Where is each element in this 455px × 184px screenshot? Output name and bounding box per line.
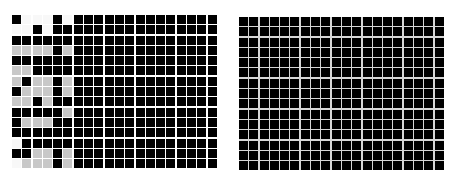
grid-cell <box>94 108 103 117</box>
grid-cell <box>63 149 72 158</box>
grid-cell <box>280 141 289 150</box>
grid-cell <box>280 151 289 160</box>
grid-cell <box>321 38 330 47</box>
grid-cell <box>208 77 217 86</box>
grid-cell <box>363 151 372 160</box>
grid-cell <box>146 15 155 24</box>
grid-cell <box>424 27 433 36</box>
grid-cell <box>22 15 31 24</box>
grid-cell <box>187 108 196 117</box>
grid-cell <box>94 159 103 168</box>
grid-cell <box>105 118 114 127</box>
grid-cell <box>321 68 330 77</box>
grid-cell <box>166 56 175 65</box>
grid-cell <box>270 161 279 170</box>
grid-cell <box>332 38 341 47</box>
grid-cell <box>208 149 217 158</box>
grid-cell <box>249 110 258 119</box>
grid-cell <box>414 89 423 98</box>
grid-cell <box>424 79 433 88</box>
grid-cell <box>332 120 341 129</box>
grid-cell <box>249 58 258 67</box>
grid-cell <box>84 108 93 117</box>
grid-cell <box>321 151 330 160</box>
right-grid-panel <box>239 17 444 170</box>
grid-cell <box>270 99 279 108</box>
grid-cell <box>125 15 134 24</box>
grid-cell <box>393 99 402 108</box>
grid-cell <box>383 79 392 88</box>
grid-cell <box>94 128 103 137</box>
grid-cell <box>177 46 186 55</box>
grid-cell <box>43 97 52 106</box>
grid-cell <box>414 161 423 170</box>
grid-cell <box>84 36 93 45</box>
grid-cell <box>332 58 341 67</box>
grid-cell <box>177 87 186 96</box>
grid-cell <box>125 149 134 158</box>
grid-cell <box>301 38 310 47</box>
grid-cell <box>270 151 279 160</box>
grid-cell <box>43 25 52 34</box>
grid-cell <box>136 36 145 45</box>
grid-cell <box>84 159 93 168</box>
grid-cell <box>290 48 299 57</box>
grid-cell <box>156 97 165 106</box>
grid-cell <box>146 139 155 148</box>
grid-cell <box>94 149 103 158</box>
grid-cell <box>260 58 269 67</box>
grid-cell <box>115 97 124 106</box>
grid-cell <box>352 151 361 160</box>
grid-cell <box>208 25 217 34</box>
grid-cell <box>53 25 62 34</box>
grid-cell <box>393 110 402 119</box>
grid-cell <box>94 87 103 96</box>
grid-cell <box>74 108 83 117</box>
grid-cell <box>352 68 361 77</box>
grid-cell <box>22 66 31 75</box>
grid-cell <box>166 139 175 148</box>
grid-cell <box>115 46 124 55</box>
grid-cell <box>125 108 134 117</box>
grid-cell <box>424 141 433 150</box>
grid-cell <box>177 108 186 117</box>
grid-cell <box>373 110 382 119</box>
grid-cell <box>290 68 299 77</box>
grid-cell <box>208 87 217 96</box>
grid-cell <box>424 161 433 170</box>
grid-cell <box>187 87 196 96</box>
grid-cell <box>435 130 444 139</box>
grid-cell <box>404 17 413 26</box>
grid-cell <box>383 68 392 77</box>
grid-cell <box>301 141 310 150</box>
grid-cell <box>311 38 320 47</box>
grid-cell <box>136 139 145 148</box>
grid-cell <box>393 120 402 129</box>
grid-cell <box>53 46 62 55</box>
grid-cell <box>290 99 299 108</box>
grid-cell <box>373 141 382 150</box>
grid-cell <box>363 58 372 67</box>
grid-cell <box>43 118 52 127</box>
grid-cell <box>63 66 72 75</box>
grid-cell <box>125 36 134 45</box>
grid-cell <box>74 25 83 34</box>
grid-cell <box>342 17 351 26</box>
grid-cell <box>321 120 330 129</box>
grid-cell <box>187 77 196 86</box>
grid-cell <box>332 141 341 150</box>
grid-cell <box>115 108 124 117</box>
grid-cell <box>239 141 248 150</box>
grid-cell <box>332 17 341 26</box>
grid-cell <box>33 25 42 34</box>
grid-cell <box>435 58 444 67</box>
grid-cell <box>63 108 72 117</box>
grid-cell <box>115 128 124 137</box>
grid-cell <box>74 36 83 45</box>
grid-cell <box>321 17 330 26</box>
grid-cell <box>435 79 444 88</box>
grid-cell <box>166 25 175 34</box>
grid-cell <box>260 89 269 98</box>
grid-cell <box>435 161 444 170</box>
grid-cell <box>53 139 62 148</box>
